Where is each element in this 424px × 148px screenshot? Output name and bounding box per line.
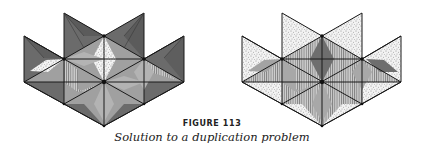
figure-number: FIGURE 113: [0, 119, 424, 128]
right-tiling: [242, 13, 401, 127]
left-tiling: [24, 13, 184, 127]
figure-caption: Solution to a duplication problem: [0, 130, 424, 144]
